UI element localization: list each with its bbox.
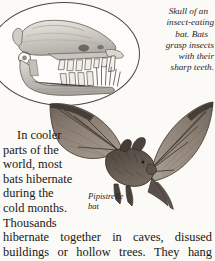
body-text-narrow-column: In cooler parts of the world, most bats … xyxy=(3,128,91,230)
body-text-line: bats hibernate xyxy=(3,172,91,187)
body-text-line: parts of the xyxy=(3,143,91,158)
page-canvas: Skull of an insect-eating bat. Bats gras… xyxy=(0,0,215,261)
body-text-word: hollow xyxy=(76,245,110,260)
skull-caption-line: insect-eating xyxy=(140,17,214,28)
body-text-word: They xyxy=(154,245,179,260)
skull-caption: Skull of an insect-eating bat. Bats gras… xyxy=(140,6,214,74)
body-text-word: hibernate xyxy=(3,230,49,245)
body-text-line: Thousands xyxy=(3,216,91,231)
skull-caption-line: sharp teeth. xyxy=(140,62,214,73)
body-text-wide-column: hibernate together in caves, disused bui… xyxy=(3,230,212,259)
body-text-line: buildings or hollow trees. They hang xyxy=(3,245,212,260)
body-text-word: together xyxy=(60,230,101,245)
body-text-word: hang xyxy=(188,245,212,260)
body-text-line: cold months. xyxy=(3,201,91,216)
body-text-line: during the xyxy=(3,186,91,201)
body-text-word: or xyxy=(58,245,68,260)
skull-oval-frame xyxy=(0,2,140,106)
skull-caption-line: with their xyxy=(140,51,214,62)
body-text-word: trees. xyxy=(119,245,146,260)
body-text-word: buildings xyxy=(3,245,49,260)
skull-figure xyxy=(0,2,140,106)
skull-caption-line: Skull of an xyxy=(140,6,208,17)
body-text: In cooler parts of the world, most bats … xyxy=(3,128,212,259)
body-text-word: in xyxy=(112,230,122,245)
body-text-line: hibernate together in caves, disused xyxy=(3,230,212,245)
body-text-line: world, most xyxy=(3,157,91,172)
body-text-line: In cooler xyxy=(3,128,91,143)
body-text-word: caves, xyxy=(133,230,164,245)
skull-caption-line: bat. Bats xyxy=(140,29,208,40)
body-text-word: disused xyxy=(175,230,212,245)
skull-caption-line: grasp insects xyxy=(140,40,214,51)
bat-skull-illustration xyxy=(0,3,139,105)
